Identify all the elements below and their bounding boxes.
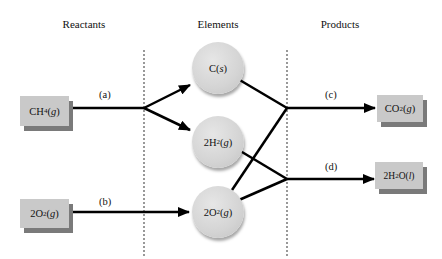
element-circle-c: C(s) xyxy=(192,42,244,94)
header-reactants: Reactants xyxy=(24,18,144,30)
header-products: Products xyxy=(280,18,400,30)
step-label-c: (c) xyxy=(325,89,337,100)
element-circle-h2: 2H2(g) xyxy=(192,116,244,168)
formula: CH xyxy=(29,106,44,117)
step-label-d: (d) xyxy=(325,161,337,172)
product-box-co2: CO2(g) xyxy=(377,95,423,122)
reactant-box-ch4: CH4(g) xyxy=(20,96,69,126)
reactant-box-o2: 2O2(g) xyxy=(20,199,69,228)
step-label-a: (a) xyxy=(99,89,111,100)
element-circle-o2: 2O2(g) xyxy=(192,186,244,238)
formula: 2O xyxy=(30,208,43,219)
header-elements: Elements xyxy=(158,18,278,30)
product-box-h2o: 2H2O(l) xyxy=(375,162,423,189)
step-label-b: (b) xyxy=(99,196,111,207)
